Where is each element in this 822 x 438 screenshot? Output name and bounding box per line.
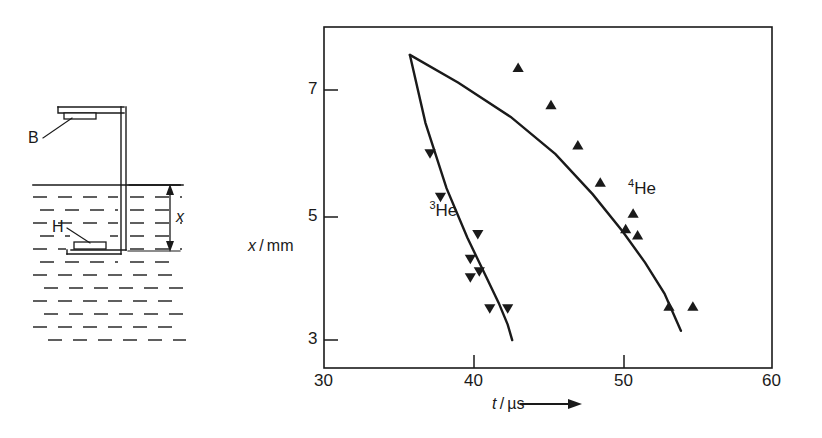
data-point — [663, 301, 674, 311]
data-point — [465, 255, 476, 265]
series-4He-points — [513, 63, 699, 311]
data-point — [572, 140, 583, 150]
leader-line-H — [67, 228, 90, 243]
y-axis-ticks — [324, 90, 338, 340]
dim-arrow-down — [166, 241, 174, 252]
data-point — [472, 230, 483, 240]
series-3He-points — [424, 149, 513, 314]
x-tick-label-50: 50 — [614, 372, 633, 389]
series-label-4He-base: He — [634, 179, 656, 198]
x-axis-label: t / µs — [492, 396, 525, 412]
data-point — [513, 63, 524, 73]
series-label-3He: 3He — [429, 200, 457, 219]
x-axis-ticks — [474, 355, 624, 368]
y-tick-label-5: 5 — [308, 207, 317, 224]
diagram-label-x: x — [176, 209, 184, 225]
data-point — [465, 273, 476, 283]
plot-frame — [324, 27, 772, 368]
plate-B — [64, 113, 96, 119]
diagram-label-H: H — [52, 219, 64, 235]
data-point — [484, 304, 495, 314]
leader-line-B — [43, 118, 72, 138]
figure-root: B H x — [0, 0, 822, 438]
x-tick-label-30: 30 — [314, 372, 333, 389]
data-point — [545, 100, 556, 110]
data-point — [632, 230, 643, 240]
diagram-label-B: B — [28, 130, 39, 146]
data-point — [687, 301, 698, 311]
data-point — [424, 149, 435, 159]
y-tick-label-3: 3 — [308, 330, 317, 347]
x-axis-arrow — [520, 399, 582, 409]
data-point — [628, 208, 639, 218]
series-label-3He-base: He — [436, 201, 458, 220]
x-tick-label-40: 40 — [464, 372, 483, 389]
data-point — [595, 177, 606, 187]
y-tick-label-7: 7 — [308, 80, 317, 97]
y-axis-label: x / mm — [248, 238, 294, 254]
x-tick-label-60: 60 — [762, 372, 781, 389]
fit-curve-3He — [410, 55, 512, 340]
apparatus-diagram — [0, 0, 300, 438]
series-label-4He: 4He — [628, 178, 656, 197]
xy-plot — [302, 0, 822, 438]
